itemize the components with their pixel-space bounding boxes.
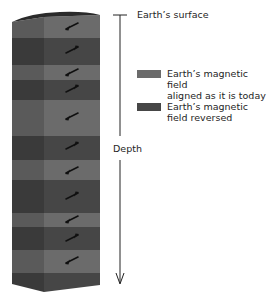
band-front-reversed <box>44 80 100 101</box>
band-side-reversed <box>12 80 44 101</box>
band-front-reversed <box>44 38 100 66</box>
band-front-normal <box>44 213 100 228</box>
band-front-reversed <box>44 136 100 161</box>
band-front-normal <box>44 100 100 137</box>
band-side-normal <box>12 160 44 181</box>
band-front-reversed <box>44 273 100 293</box>
band-side-reversed <box>12 136 44 161</box>
legend-swatch-normal <box>137 70 161 78</box>
column-side-face <box>12 15 44 293</box>
column-front-face <box>44 15 100 293</box>
band-side-reversed <box>12 273 44 293</box>
depth-label: Depth <box>113 143 142 154</box>
band-side-normal <box>12 213 44 228</box>
earths-surface-label: Earth’s surface <box>137 9 209 20</box>
legend-swatch-reversed <box>137 103 161 111</box>
band-side-reversed <box>12 38 44 66</box>
band-side-reversed <box>12 227 44 251</box>
band-side-reversed <box>12 180 44 214</box>
band-side-normal <box>12 250 44 274</box>
legend-label-reversed: Earth’s magnetic field reversed <box>167 101 248 123</box>
legend-label-normal: Earth’s magnetic field aligned as it is … <box>167 68 269 101</box>
band-side-normal <box>12 65 44 81</box>
band-front-normal <box>44 250 100 274</box>
band-side-normal <box>12 100 44 137</box>
